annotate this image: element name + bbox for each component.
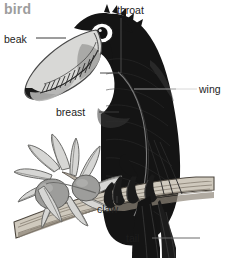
bird-illustration <box>0 0 227 258</box>
label-claw: claw <box>97 203 118 215</box>
label-wing: wing <box>199 83 221 95</box>
label-beak: beak <box>4 33 27 45</box>
beak <box>25 30 102 101</box>
illustration-canvas: bird beak throat wing breast claw tail <box>0 0 227 258</box>
fruit-right <box>72 175 100 201</box>
figure-title: bird <box>4 1 31 17</box>
label-throat: throat <box>117 4 144 16</box>
eye-highlight <box>99 29 102 32</box>
fruit-right-highlight <box>76 179 88 187</box>
label-breast: breast <box>56 106 85 118</box>
label-tail: tail <box>126 232 139 244</box>
